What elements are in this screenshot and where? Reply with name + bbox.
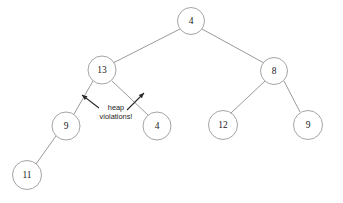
node-label: 4 [155, 121, 160, 131]
tree-edge [284, 81, 300, 112]
annotation-line-1: heap [108, 103, 124, 112]
tree-node: 12 [209, 111, 238, 140]
annotation-line-2: violations! [100, 112, 133, 121]
tree-node: 9 [294, 111, 323, 140]
binary-tree-diagram: 41389412911 heapviolations! [0, 0, 343, 203]
tree-node: 8 [261, 58, 288, 85]
tree-node: 9 [52, 112, 80, 140]
tree-node: 4 [178, 8, 205, 35]
node-label: 9 [306, 120, 311, 130]
node-label: 9 [64, 121, 69, 131]
tree-edges-group [36, 29, 300, 164]
heap-violations-annotation: heapviolations! [82, 93, 144, 121]
tree-edge [231, 81, 265, 113]
tree-edge [36, 136, 56, 164]
node-label: 8 [272, 66, 277, 76]
tree-edge [113, 29, 180, 63]
tree-node: 11 [13, 161, 42, 190]
node-label: 12 [218, 120, 228, 130]
node-label: 4 [189, 16, 194, 26]
tree-edge [202, 29, 264, 63]
node-label: 13 [97, 65, 107, 75]
tree-nodes-group: 41389412911 [13, 8, 323, 190]
diagram-canvas: 41389412911 heapviolations! [0, 0, 343, 203]
tree-node: 13 [88, 56, 116, 84]
node-label: 11 [22, 170, 31, 180]
tree-node: 4 [143, 112, 171, 140]
